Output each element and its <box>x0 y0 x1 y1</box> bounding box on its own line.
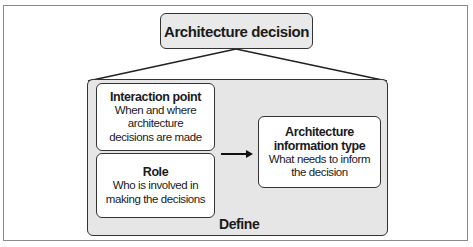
arrow-icon <box>0 0 473 247</box>
information-type-node: Architecture information type What needs… <box>258 116 381 188</box>
node-title: Architecture information type <box>265 125 375 153</box>
define-label: Define <box>219 216 259 232</box>
node-description: What needs to inform the decision <box>264 153 376 180</box>
